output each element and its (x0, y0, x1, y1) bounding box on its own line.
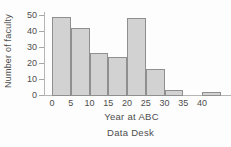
plot-area: 010203040500510152025303540 (0, 0, 231, 147)
histogram-bar (90, 53, 109, 96)
y-tick-label: 20 (14, 58, 37, 68)
histogram-bar (127, 18, 146, 96)
source-caption: Data Desk (88, 127, 173, 138)
histogram-bar (108, 57, 127, 96)
histogram-bar (202, 92, 221, 96)
histogram-bar (146, 69, 165, 96)
x-axis-label: Year at ABC (89, 111, 174, 122)
x-tick-label: 5 (61, 98, 81, 108)
x-tick-label: 35 (173, 98, 193, 108)
x-tick-label: 20 (117, 98, 137, 108)
histogram-bar (165, 90, 184, 96)
y-tick-label: 50 (14, 10, 37, 20)
histogram-bar (71, 28, 90, 96)
y-tick-label: 0 (14, 90, 37, 100)
histogram-figure: Number of faculty 0102030405005101520253… (0, 0, 231, 147)
y-tick (39, 47, 44, 48)
y-tick-label: 10 (14, 74, 37, 84)
x-tick-label: 25 (136, 98, 156, 108)
x-tick-label: 40 (192, 98, 212, 108)
x-tick-label: 15 (98, 98, 118, 108)
y-tick-label: 40 (14, 26, 37, 36)
y-tick (39, 79, 44, 80)
y-axis-line (44, 12, 45, 96)
y-tick-label: 30 (14, 42, 37, 52)
x-tick-label: 30 (155, 98, 175, 108)
x-tick-label: 10 (80, 98, 100, 108)
histogram-bar (52, 17, 71, 96)
y-tick (39, 95, 44, 96)
y-tick (39, 15, 44, 16)
y-tick (39, 31, 44, 32)
y-tick (39, 63, 44, 64)
x-tick-label: 0 (42, 98, 62, 108)
